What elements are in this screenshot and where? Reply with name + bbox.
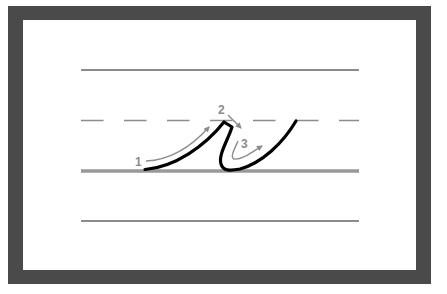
letter-r-stroke — [145, 121, 296, 170]
arrow-step-1 — [146, 127, 209, 161]
step-label-1: 1 — [135, 155, 142, 169]
step-label-3: 3 — [241, 137, 248, 151]
handwriting-diagram: 1 2 3 — [0, 0, 447, 294]
step-label-2: 2 — [218, 103, 225, 117]
